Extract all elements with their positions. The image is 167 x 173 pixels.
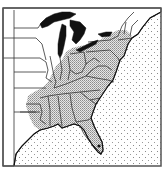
lake-okeechobee	[97, 144, 100, 147]
range-map	[0, 0, 167, 173]
range-map-svg	[0, 0, 167, 173]
